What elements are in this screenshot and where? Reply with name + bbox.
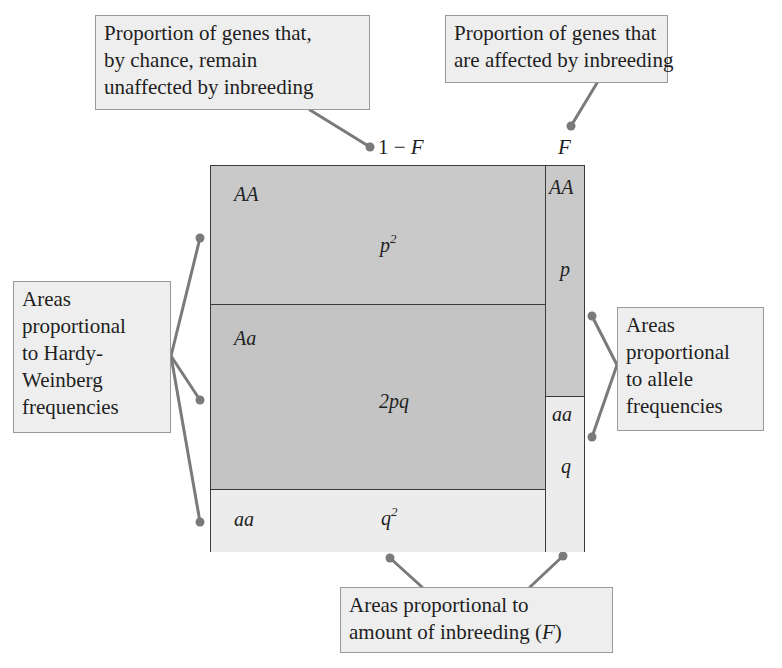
callout-allele-frequencies: Areas proportional to allele frequencies xyxy=(617,307,764,431)
frequency-label: p2 xyxy=(380,231,397,257)
frequency-label: q xyxy=(561,455,571,478)
label-F: F xyxy=(411,135,424,159)
cell-right-aa: aa q xyxy=(545,397,584,552)
genotype-label: aa xyxy=(552,403,572,426)
callout-line: unaffected by inbreeding xyxy=(104,74,361,101)
label-1-minus-F: 1 − F xyxy=(378,135,424,160)
dot-F xyxy=(567,122,576,131)
callout-line: Areas proportional to xyxy=(349,592,604,619)
callout-hardy-weinberg-frequencies: Areas proportional to Hardy- Weinberg fr… xyxy=(13,281,171,433)
callout-line: frequencies xyxy=(22,394,162,421)
callout-amount-of-inbreeding: Areas proportional to amount of inbreedi… xyxy=(340,587,613,653)
freq-exponent: 2 xyxy=(390,231,397,246)
frequency-label: 2pq xyxy=(379,390,409,413)
callout-line: Weinberg xyxy=(22,367,162,394)
frequency-label: p xyxy=(560,258,570,281)
callout-line: Areas xyxy=(22,286,162,313)
freq-base: p xyxy=(380,234,390,256)
label-F: F xyxy=(558,135,571,160)
freq-base: q xyxy=(381,507,391,529)
callout-line: by chance, remain xyxy=(104,47,361,74)
area-diagram: AA p2 Aa 2pq aa q2 AA p aa q xyxy=(210,165,585,552)
label-minus: − xyxy=(389,135,411,159)
callout-line: Areas xyxy=(626,312,755,339)
close-paren: ) xyxy=(555,620,562,644)
genotype-label: aa xyxy=(234,508,254,531)
callout-affected-by-inbreeding: Proportion of genes that are affected by… xyxy=(445,15,668,83)
cell-left-AA: AA p2 xyxy=(211,166,545,305)
cell-left-aa: aa q2 xyxy=(211,490,545,552)
genotype-label: Aa xyxy=(234,327,256,350)
dot-1-minus-F xyxy=(366,143,375,152)
freq-exponent: 2 xyxy=(391,504,398,519)
callout-text: amount of inbreeding ( xyxy=(349,620,542,644)
cell-left-Aa: Aa 2pq xyxy=(211,305,545,490)
callout-line: Proportion of genes that xyxy=(454,20,659,47)
callout-line: Proportion of genes that, xyxy=(104,20,361,47)
label-F-text: F xyxy=(558,135,571,159)
genotype-label: AA xyxy=(234,183,258,206)
callout-line: to allele xyxy=(626,366,755,393)
frequency-label: q2 xyxy=(381,504,398,530)
cell-right-AA: AA p xyxy=(545,166,584,397)
callout-line: to Hardy- xyxy=(22,340,162,367)
callout-line: frequencies xyxy=(626,393,755,420)
label-one: 1 xyxy=(378,135,389,159)
genotype-label: AA xyxy=(549,176,573,199)
callout-line: are affected by inbreeding xyxy=(454,47,659,74)
callout-line: amount of inbreeding (F) xyxy=(349,619,604,646)
callout-unaffected-by-inbreeding: Proportion of genes that, by chance, rem… xyxy=(95,15,370,110)
callout-line: proportional xyxy=(626,339,755,366)
F-symbol: F xyxy=(542,620,555,644)
callout-line: proportional xyxy=(22,313,162,340)
